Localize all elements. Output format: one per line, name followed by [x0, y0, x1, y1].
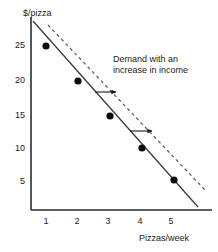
shifted-demand-line: [48, 25, 205, 190]
y-axis-title: $/pizza: [23, 8, 52, 18]
data-point: [170, 176, 177, 183]
y-tick-label-15: 15: [5, 110, 25, 120]
annotation-line-2: increase in income: [113, 65, 188, 76]
data-point: [138, 144, 145, 151]
x-tick-label-4: 4: [133, 216, 147, 226]
x-tick-label-3: 3: [101, 216, 115, 226]
y-tick-label-20: 20: [5, 75, 25, 85]
demand-shift-annotation: Demand with an increase in income: [113, 54, 188, 76]
data-point: [106, 112, 113, 119]
x-axis-title: Pizzas/week: [139, 233, 189, 243]
x-tick-label-2: 2: [70, 216, 84, 226]
demand-curve-chart: $/pizza Pizzas/week 25 20 15 10 5 1 2 3 …: [0, 0, 218, 252]
y-tick-label-10: 10: [5, 143, 25, 153]
x-tick-label-5: 5: [164, 216, 178, 226]
y-tick-label-25: 25: [5, 40, 25, 50]
x-tick-label-1: 1: [39, 216, 53, 226]
annotation-line-1: Demand with an: [113, 54, 188, 65]
data-point: [42, 42, 49, 49]
chart-plot-area: [0, 0, 218, 252]
y-tick-label-5: 5: [5, 176, 25, 186]
data-point: [74, 77, 81, 84]
